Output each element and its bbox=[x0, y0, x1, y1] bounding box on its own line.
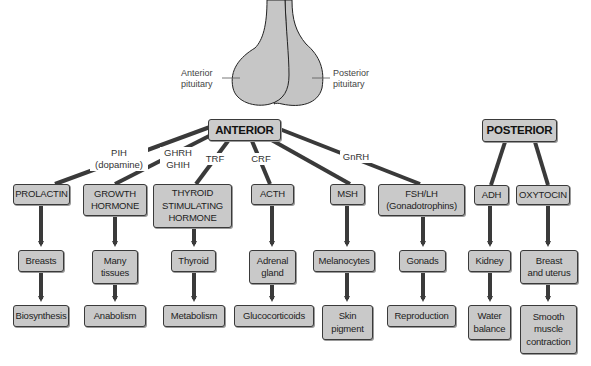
label-line: Posterior bbox=[333, 68, 369, 79]
box-text: Kidney bbox=[476, 255, 504, 268]
label-line: pituitary bbox=[181, 79, 213, 90]
box-text: Biosynthesis bbox=[16, 310, 67, 323]
hormone-oxytocin: OXYTOCIN bbox=[516, 185, 570, 205]
hormone-fsh-lh: FSH/LH(Gonadotrophins) bbox=[378, 184, 465, 216]
effect-water-balance: Waterbalance bbox=[468, 305, 511, 340]
box-text: Reproduction bbox=[394, 310, 448, 323]
box-text: ACTH bbox=[260, 188, 285, 201]
box-text: THYROID bbox=[162, 187, 223, 200]
hormone-tsh: THYROIDSTIMULATINGHORMONE bbox=[153, 184, 232, 228]
trf-label: TRF bbox=[203, 153, 227, 165]
box-text: Gonads bbox=[406, 255, 438, 268]
box-text: Many bbox=[101, 255, 129, 268]
box-text: gland bbox=[257, 267, 288, 280]
box-text: Water bbox=[474, 310, 506, 323]
box-text: Breasts bbox=[26, 255, 57, 268]
box-text: contraction bbox=[526, 336, 570, 349]
target-adrenal-gland: Adrenalgland bbox=[249, 250, 296, 284]
posterior-pituitary-label: Posterior pituitary bbox=[333, 68, 369, 90]
effect-biosynthesis: Biosynthesis bbox=[13, 305, 69, 327]
box-text: HORMONE bbox=[162, 212, 223, 225]
box-text: ADH bbox=[482, 189, 501, 202]
box-text: and uterus bbox=[528, 267, 571, 280]
box-text: Melanocytes bbox=[318, 255, 369, 268]
label-line: (dopamine) bbox=[91, 159, 147, 171]
hormone-growth-hormone: GROWTHHORMONE bbox=[83, 184, 147, 216]
label-line: Anterior bbox=[181, 68, 213, 79]
hormone-adh: ADH bbox=[474, 185, 509, 205]
gnrh-label: GnRH bbox=[340, 151, 372, 163]
box-text: Metabolism bbox=[171, 310, 218, 323]
target-breast-and-uterus: Breastand uterus bbox=[520, 250, 578, 284]
target-thyroid: Thyroid bbox=[171, 250, 216, 272]
box-text: balance bbox=[474, 323, 506, 336]
box-text: Thyroid bbox=[178, 255, 208, 268]
box-text: Smooth bbox=[526, 311, 570, 324]
hormone-acth: ACTH bbox=[251, 184, 294, 205]
box-text: GROWTH bbox=[91, 188, 139, 201]
box-text: Anabolism bbox=[94, 310, 137, 323]
effect-skin-pigment: Skinpigment bbox=[322, 305, 373, 340]
box-text: STIMULATING bbox=[162, 200, 223, 213]
anterior-header: ANTERIOR bbox=[208, 119, 281, 141]
target-gonads: Gonads bbox=[399, 250, 446, 272]
box-text: PROLACTIN bbox=[15, 188, 68, 201]
box-text: (Gonadotrophins) bbox=[386, 200, 457, 213]
target-many-tissues: Manytissues bbox=[92, 250, 138, 284]
effect-glucocorticoids: Glucocorticoids bbox=[234, 305, 314, 327]
anterior-pituitary-label: Anterior pituitary bbox=[181, 68, 213, 90]
label-line: GHIH bbox=[161, 159, 195, 171]
effect-reproduction: Reproduction bbox=[387, 305, 456, 327]
pih-label: PIH (dopamine) bbox=[90, 147, 148, 171]
box-text: muscle bbox=[526, 323, 570, 336]
box-text: Breast bbox=[528, 255, 571, 268]
box-text: Glucocorticoids bbox=[243, 310, 305, 323]
hormone-prolactin: PROLACTIN bbox=[13, 184, 70, 205]
target-melanocytes: Melanocytes bbox=[313, 250, 375, 272]
box-text: tissues bbox=[101, 267, 129, 280]
pituitary-gland-icon bbox=[222, 0, 330, 105]
box-text: Adrenal bbox=[257, 255, 288, 268]
posterior-header: POSTERIOR bbox=[482, 119, 557, 142]
box-text: OXYTOCIN bbox=[519, 189, 567, 202]
box-text: Skin bbox=[331, 310, 363, 323]
hormone-msh: MSH bbox=[330, 184, 365, 205]
box-text: FSH/LH bbox=[386, 188, 457, 201]
label-line: GHRH bbox=[161, 147, 195, 159]
target-breasts: Breasts bbox=[18, 250, 64, 272]
label-line: PIH bbox=[91, 147, 147, 159]
ghrh-ghih-label: GHRH GHIH bbox=[160, 147, 196, 171]
target-kidney: Kidney bbox=[468, 250, 511, 272]
effect-smooth-muscle-contraction: Smoothmusclecontraction bbox=[520, 305, 577, 354]
box-text: HORMONE bbox=[91, 200, 139, 213]
label-line: pituitary bbox=[333, 79, 369, 90]
box-text: pigment bbox=[331, 323, 363, 336]
box-text: MSH bbox=[337, 188, 358, 201]
crf-label: CRF bbox=[249, 153, 273, 165]
effect-metabolism: Metabolism bbox=[163, 305, 225, 327]
effect-anabolism: Anabolism bbox=[84, 305, 146, 327]
